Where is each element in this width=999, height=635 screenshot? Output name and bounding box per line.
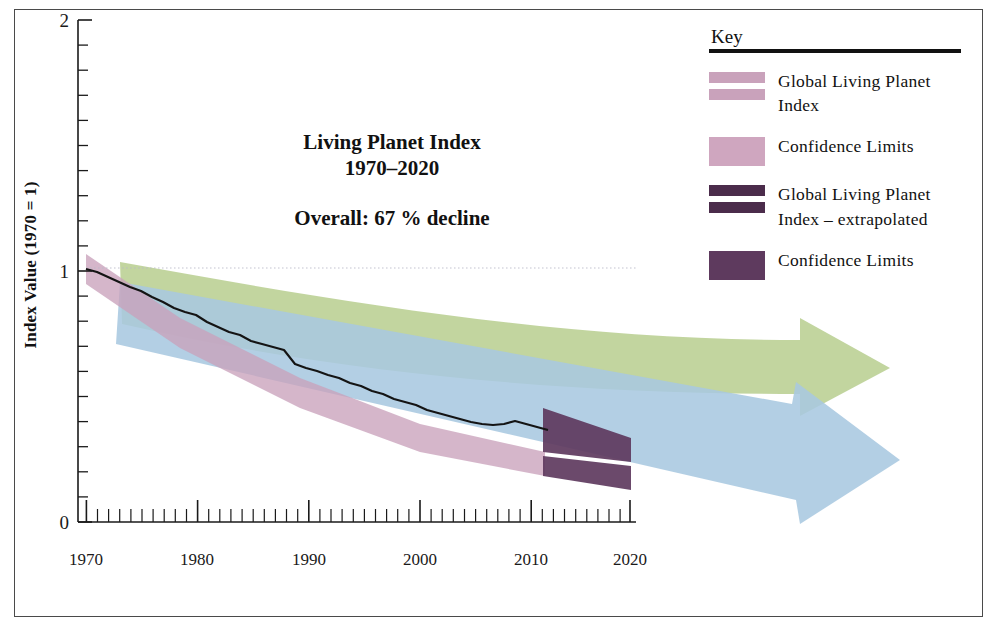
legend-label-line1: Confidence Limits (778, 248, 914, 273)
extrapolated-band-lower (543, 456, 631, 490)
y-tick-label-0: 0 (60, 512, 70, 533)
x-tick-label-2010: 2010 (514, 550, 548, 569)
legend-item-confidence-limits-extrapolated: Confidence Limits (709, 248, 967, 280)
figure-root: 2 1 0 (0, 0, 999, 635)
x-minor-ticks (98, 509, 621, 522)
legend-label-global-lpi-extrapolated: Global Living Planet Index – extrapolate… (778, 182, 931, 232)
legend: Key Global Living Planet Index Confidenc… (709, 27, 967, 280)
legend-label-line2: Index – extrapolated (778, 207, 931, 232)
x-tick-label-1980: 1980 (180, 550, 214, 569)
legend-swatch-confidence-limits (709, 137, 765, 166)
legend-item-global-lpi-extrapolated: Global Living Planet Index – extrapolate… (709, 182, 967, 232)
y-tick-label-1: 1 (60, 261, 70, 282)
legend-label-line1: Confidence Limits (778, 134, 914, 159)
y-tick-label-2: 2 (60, 10, 70, 31)
legend-label-global-lpi: Global Living Planet Index (778, 69, 931, 119)
arrow-blue (116, 282, 900, 524)
legend-swatch-confidence-limits-extrapolated (709, 251, 765, 280)
legend-swatch-global-lpi (709, 72, 765, 100)
legend-item-confidence-limits: Confidence Limits (709, 134, 967, 166)
legend-heading: Key (709, 27, 967, 47)
legend-divider (709, 49, 961, 53)
legend-item-global-lpi: Global Living Planet Index (709, 69, 967, 119)
legend-label-confidence-limits: Confidence Limits (778, 134, 914, 159)
legend-swatch-global-lpi-extrapolated (709, 185, 765, 213)
legend-label-line1: Global Living Planet (778, 69, 931, 94)
legend-label-confidence-limits-extrapolated: Confidence Limits (778, 248, 914, 273)
legend-label-line1: Global Living Planet (778, 182, 931, 207)
x-major-ticks (86, 500, 630, 522)
x-tick-label-1990: 1990 (292, 550, 326, 569)
legend-label-line2: Index (778, 93, 931, 118)
x-tick-label-1970: 1970 (69, 550, 103, 569)
x-tick-label-2000: 2000 (403, 550, 437, 569)
y-axis-label: Index Value (1970 = 1) (21, 160, 41, 370)
x-tick-label-2020: 2020 (613, 550, 647, 569)
